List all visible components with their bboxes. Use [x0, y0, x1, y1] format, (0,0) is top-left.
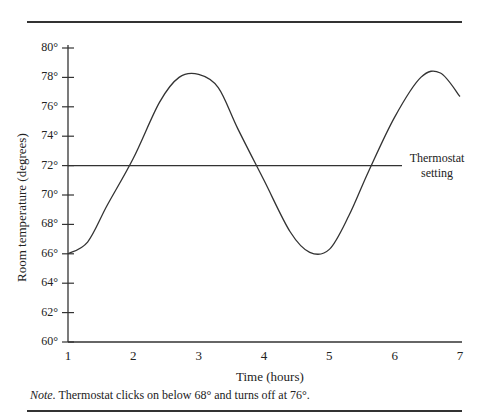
note-text: Thermostat clicks on below 68° and turns…	[56, 388, 310, 402]
note-prefix: Note.	[30, 388, 56, 402]
y-tick-label: 78°	[18, 69, 58, 84]
x-tick-label: 1	[58, 348, 78, 364]
y-tick-label: 60°	[18, 334, 58, 349]
thermostat-annotation: Thermostat setting	[402, 151, 472, 181]
x-axis-label: Time (hours)	[236, 369, 304, 385]
thermostat-annotation-line2: setting	[402, 166, 472, 181]
x-tick-label: 2	[123, 348, 143, 364]
x-tick-label: 5	[319, 348, 339, 364]
y-tick-label: 76°	[18, 99, 58, 114]
thermostat-annotation-line1: Thermostat	[402, 151, 472, 166]
y-tick-label: 62°	[18, 305, 58, 320]
x-tick-label: 3	[189, 348, 209, 364]
chart-note: Note. Thermostat clicks on below 68° and…	[30, 388, 310, 403]
y-tick-label: 80°	[18, 40, 58, 55]
x-tick-label: 7	[450, 348, 470, 364]
x-tick-label: 6	[385, 348, 405, 364]
bottom-rule	[27, 410, 462, 412]
x-tick-label: 4	[254, 348, 274, 364]
y-axis-label: Room temperature (degrees)	[14, 133, 30, 282]
